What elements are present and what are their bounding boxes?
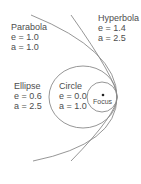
ellipse-label: Ellipse e = 0.6 a = 2.5 <box>14 81 42 111</box>
parabola-name: Parabola <box>11 22 47 32</box>
hyperbola-eccentricity: e = 1.4 <box>98 23 139 33</box>
circle-label: Circle e = 0.0 a = 1.0 <box>59 81 87 111</box>
ellipse-semimajor-axis: a = 2.5 <box>14 101 42 111</box>
hyperbola-label: Hyperbola e = 1.4 a = 2.5 <box>98 13 139 43</box>
parabola-label: Parabola e = 1.0 a = 1.0 <box>11 22 47 52</box>
circle-eccentricity: e = 0.0 <box>59 91 87 101</box>
focus-point-icon <box>102 94 105 97</box>
ellipse-eccentricity: e = 0.6 <box>14 91 42 101</box>
circle-semimajor-axis: a = 1.0 <box>59 101 87 111</box>
circle-name: Circle <box>59 81 87 91</box>
parabola-eccentricity: e = 1.0 <box>11 32 47 42</box>
hyperbola-name: Hyperbola <box>98 13 139 23</box>
hyperbola-semimajor-axis: a = 2.5 <box>98 33 139 43</box>
circle-curve <box>87 82 117 112</box>
ellipse-name: Ellipse <box>14 81 42 91</box>
focus-label: Focus <box>93 98 112 106</box>
parabola-semimajor-axis: a = 1.0 <box>11 42 47 52</box>
